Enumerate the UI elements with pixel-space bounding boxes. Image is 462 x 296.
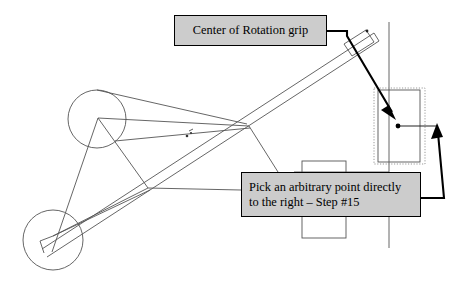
beam-end-cap bbox=[374, 33, 379, 41]
leader-arbitrary-point-arrowhead bbox=[431, 123, 443, 139]
beam-to-base-link bbox=[249, 126, 278, 172]
link-lower-marker-down bbox=[40, 241, 44, 253]
beam-mid-marker-icon bbox=[186, 129, 193, 137]
link-upper-vertex-down-right bbox=[98, 118, 148, 188]
rotation-grip-point[interactable] bbox=[366, 30, 369, 33]
diagram-canvas: Center of Rotation grip Pick an arbitrar… bbox=[0, 0, 462, 296]
pivot-circles-group bbox=[23, 90, 126, 270]
callout-arbitrary-point[interactable]: Pick an arbitrary point directly to the … bbox=[241, 172, 421, 217]
leader-arbitrary-point-left bbox=[148, 188, 241, 190]
leader-arbitrary-point-right bbox=[421, 123, 444, 198]
picked-point-dot[interactable] bbox=[396, 124, 401, 129]
leader-rotation-grip bbox=[327, 31, 396, 120]
linkage-group bbox=[40, 90, 250, 253]
base-block-lower bbox=[302, 216, 346, 238]
callout-arbitrary-point-text: Pick an arbitrary point directly to the … bbox=[249, 180, 401, 209]
main-diagonal-beam[interactable] bbox=[42, 33, 379, 257]
callout-center-of-rotation-grip[interactable]: Center of Rotation grip bbox=[174, 15, 327, 46]
lower-pivot-circle bbox=[23, 210, 83, 270]
link-upper-circle-edge-to-right bbox=[115, 128, 250, 141]
beam-edge-lower bbox=[47, 41, 379, 257]
link-lower-short-marker bbox=[40, 236, 53, 241]
link-lower-to-crossbar bbox=[53, 190, 150, 236]
callout-rotation-grip-text: Center of Rotation grip bbox=[193, 23, 308, 37]
leader-rotation-grip-arrowhead bbox=[381, 105, 396, 120]
